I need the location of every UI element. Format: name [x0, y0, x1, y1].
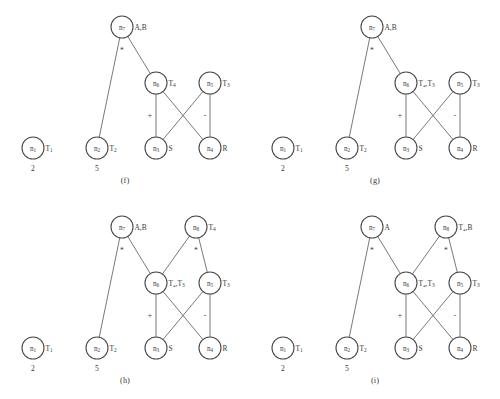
node-n2[interactable]: n2T25	[336, 137, 367, 173]
figure-container: *+-n1T12n2T25n3Sn4Rn6T4n5T3n7A,B(f)*+-n1…	[0, 0, 500, 399]
node-n1[interactable]: n1T12	[272, 337, 303, 373]
node-annotation-n4: R	[223, 344, 228, 353]
node-n6[interactable]: n6T4	[145, 72, 176, 94]
edge-n7-n2	[99, 238, 120, 337]
node-annotation-n8: T₄,B	[459, 223, 473, 232]
node-n3[interactable]: n3S	[145, 137, 173, 159]
edge-n8-n5	[199, 238, 208, 273]
edge-n8-n6	[162, 236, 189, 274]
node-constant-n2: 5	[345, 364, 349, 373]
node-annotation-n2: T2	[110, 344, 118, 354]
node-annotation-n6: T₄,T3	[419, 79, 435, 89]
node-annotation-n7: A,B	[135, 23, 147, 32]
operator-label-sub-2: -	[204, 111, 207, 120]
node-annotation-n6: T4	[169, 79, 177, 89]
node-n4[interactable]: n4R	[449, 337, 478, 359]
node-n7[interactable]: n7A,B	[111, 216, 147, 238]
node-annotation-n7: A	[385, 223, 391, 232]
edge-n8-n5	[449, 238, 458, 273]
node-n4[interactable]: n4R	[199, 337, 228, 359]
node-annotation-n3: S	[419, 344, 423, 353]
node-annotation-n2: T2	[360, 344, 368, 354]
operator-label-sub-2: -	[454, 111, 457, 120]
node-annotation-n3: S	[419, 144, 423, 153]
node-n7[interactable]: n7A	[361, 216, 391, 238]
node-annotation-n3: S	[169, 344, 173, 353]
edge-n8-n6	[412, 236, 439, 274]
node-annotation-n2: T2	[360, 144, 368, 154]
node-annotation-n8: T4	[209, 223, 217, 233]
node-constant-n1: 2	[31, 164, 35, 173]
operator-label-mul-0: *	[120, 246, 124, 255]
node-annotation-n5: T3	[223, 279, 231, 289]
node-n3[interactable]: n3S	[395, 137, 423, 159]
edge-n7-n2	[99, 38, 120, 137]
node-n4[interactable]: n4R	[449, 137, 478, 159]
node-annotation-n5: T3	[473, 279, 481, 289]
node-n2[interactable]: n2T25	[86, 137, 117, 173]
node-n1[interactable]: n1T12	[22, 337, 53, 373]
node-annotation-n7: A,B	[135, 223, 147, 232]
panel-h: **+-n1T12n2T25n3Sn4Rn6T₄,T3n5T3n7A,Bn8T4…	[0, 200, 250, 399]
node-n5[interactable]: n5T3	[199, 272, 230, 294]
node-annotation-n7: A,B	[385, 23, 397, 32]
panel-f-caption: (f)	[0, 176, 250, 185]
panel-i: **+-n1T12n2T25n3Sn4Rn6T₄,T3n5T3n7An8T₄,B…	[250, 200, 500, 399]
node-constant-n1: 2	[281, 164, 285, 173]
node-annotation-n1: T1	[46, 344, 54, 354]
node-annotation-n6: T₄,T3	[419, 279, 435, 289]
edge-n7-n6	[128, 36, 151, 73]
operator-label-add-1: +	[398, 111, 402, 120]
node-constant-n2: 5	[345, 164, 349, 173]
node-n5[interactable]: n5T3	[449, 72, 480, 94]
node-annotation-n5: T3	[473, 79, 481, 89]
node-constant-n2: 5	[95, 364, 99, 373]
node-constant-n1: 2	[31, 364, 35, 373]
panel-i-graph: **+-n1T12n2T25n3Sn4Rn6T₄,T3n5T3n7An8T₄,B	[250, 200, 500, 399]
panel-f-graph: *+-n1T12n2T25n3Sn4Rn6T4n5T3n7A,B	[0, 0, 250, 199]
node-n3[interactable]: n3S	[395, 337, 423, 359]
panel-g-graph: *+-n1T12n2T25n3Sn4Rn6T₄,T3n5T3n7A,B	[250, 0, 500, 199]
operator-label-mul-0: *	[370, 46, 374, 55]
operator-label-mul-0: *	[370, 246, 374, 255]
node-n8[interactable]: n8T4	[185, 216, 216, 238]
node-n5[interactable]: n5T3	[199, 72, 230, 94]
node-n2[interactable]: n2T25	[336, 337, 367, 373]
node-n5[interactable]: n5T3	[449, 272, 480, 294]
node-n6[interactable]: n6T₄,T3	[395, 272, 435, 294]
operator-label-sub-3: -	[204, 311, 207, 320]
node-n6[interactable]: n6T₄,T3	[395, 72, 435, 94]
node-n1[interactable]: n1T12	[22, 137, 53, 173]
edge-n7-n6	[378, 36, 401, 73]
node-n4[interactable]: n4R	[199, 137, 228, 159]
node-constant-n2: 5	[95, 164, 99, 173]
node-annotation-n1: T1	[296, 344, 304, 354]
edge-n7-n2	[349, 38, 370, 137]
node-annotation-n1: T1	[46, 144, 54, 154]
node-annotation-n5: T3	[223, 79, 231, 89]
node-annotation-n4: R	[223, 144, 228, 153]
panel-g: *+-n1T12n2T25n3Sn4Rn6T₄,T3n5T3n7A,B(g)	[250, 0, 500, 199]
node-annotation-n4: R	[473, 144, 478, 153]
operator-label-add-1: +	[148, 111, 152, 120]
node-n7[interactable]: n7A,B	[111, 16, 147, 38]
edge-n7-n2	[349, 238, 370, 337]
node-n2[interactable]: n2T25	[86, 337, 117, 373]
edge-n7-n6	[378, 236, 401, 273]
edge-n7-n6	[128, 236, 151, 273]
node-n6[interactable]: n6T₄,T3	[145, 272, 185, 294]
panel-h-graph: **+-n1T12n2T25n3Sn4Rn6T₄,T3n5T3n7A,Bn8T4	[0, 200, 250, 399]
panel-h-caption: (h)	[0, 376, 250, 385]
node-n7[interactable]: n7A,B	[361, 16, 397, 38]
node-n1[interactable]: n1T12	[272, 137, 303, 173]
node-constant-n1: 2	[281, 364, 285, 373]
node-n3[interactable]: n3S	[145, 337, 173, 359]
panel-i-caption: (i)	[250, 376, 500, 385]
node-n8[interactable]: n8T₄,B	[435, 216, 472, 238]
node-annotation-n3: S	[169, 144, 173, 153]
node-annotation-n2: T2	[110, 144, 118, 154]
panel-g-caption: (g)	[250, 176, 500, 185]
operator-label-mul-1: *	[194, 246, 198, 255]
operator-label-sub-3: -	[454, 311, 457, 320]
operator-label-add-2: +	[398, 311, 402, 320]
